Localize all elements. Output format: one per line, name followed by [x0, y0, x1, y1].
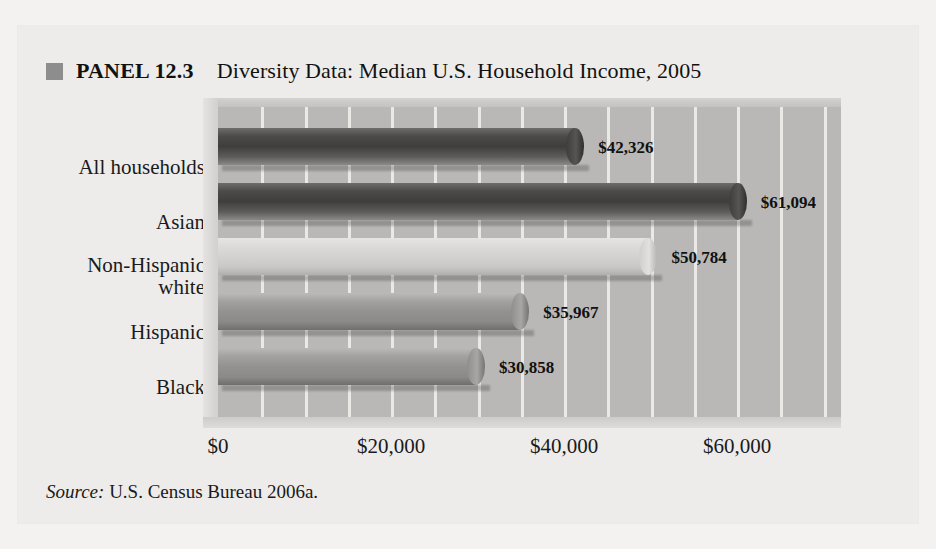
bar: [218, 348, 485, 385]
x-tick-label: $40,000: [530, 434, 598, 459]
bar: [218, 128, 584, 165]
bar-body: [218, 128, 575, 165]
source-prefix: Source:: [46, 481, 104, 502]
bar: [218, 183, 747, 220]
bar-end-cap: [639, 238, 657, 275]
bar-value-label: $50,784: [671, 248, 726, 268]
bar-body: [218, 293, 520, 330]
category-label: Black: [156, 376, 205, 398]
plot-floor: [203, 417, 841, 428]
gridline: [780, 107, 783, 418]
plot-left-wall: [203, 98, 219, 428]
bar-end-cap: [467, 348, 485, 385]
category-label: Hispanic: [130, 321, 205, 343]
bar-value-label: $30,858: [499, 358, 554, 378]
category-label: Non-Hispanicwhite: [87, 254, 205, 299]
bar-shadow: [222, 330, 534, 336]
gridline: [737, 107, 740, 418]
bar-value-label: $42,326: [598, 138, 653, 158]
panel-card: PANEL 12.3 Diversity Data: Median U.S. H…: [18, 26, 918, 523]
category-label: Asian: [156, 211, 205, 233]
bar-end-cap: [511, 293, 529, 330]
bar-end-cap: [566, 128, 584, 165]
bar-chart: All householdsAsianNon-HispanicwhiteHisp…: [18, 26, 918, 523]
source-text: U.S. Census Bureau 2006a.: [104, 481, 318, 502]
bar: [218, 293, 529, 330]
plot-back-wall: $42,326$61,094$50,784$35,967$30,858: [218, 107, 841, 418]
bar-end-cap: [729, 183, 747, 220]
panel-figure: PANEL 12.3 Diversity Data: Median U.S. H…: [0, 0, 936, 549]
value-axis: $0$20,000$40,000$60,000: [203, 434, 841, 468]
bar-shadow: [222, 275, 662, 281]
bar-shadow: [222, 385, 490, 391]
category-axis: All householdsAsianNon-HispanicwhiteHisp…: [18, 26, 218, 523]
bar-body: [218, 238, 648, 275]
bar-body: [218, 183, 738, 220]
x-tick-label: $20,000: [357, 434, 425, 459]
bar-shadow: [222, 165, 589, 171]
bar-value-label: $61,094: [761, 193, 816, 213]
category-label: All households: [78, 156, 205, 178]
gridline: [824, 107, 827, 418]
bar-shadow: [222, 220, 752, 226]
x-tick-label: $60,000: [703, 434, 771, 459]
plot-area: $42,326$61,094$50,784$35,967$30,858: [203, 98, 841, 428]
bar-value-label: $35,967: [543, 303, 598, 323]
source-note: Source: U.S. Census Bureau 2006a.: [46, 481, 318, 503]
bar: [218, 238, 657, 275]
bar-body: [218, 348, 476, 385]
x-tick-label: $0: [208, 434, 229, 459]
